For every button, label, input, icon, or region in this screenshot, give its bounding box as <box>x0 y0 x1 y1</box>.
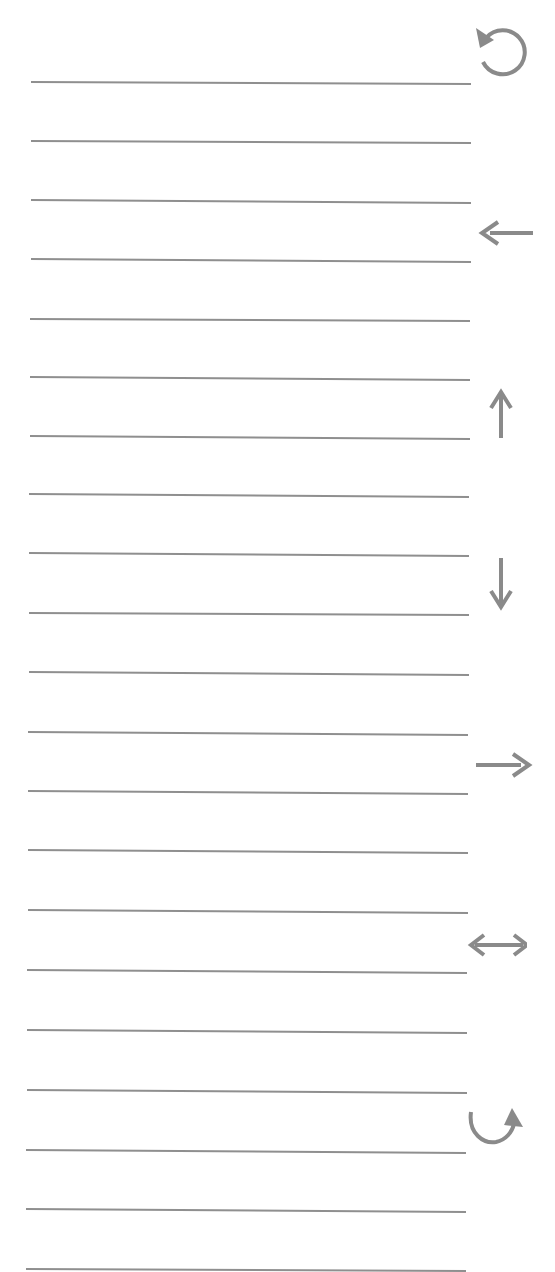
ruled-line <box>28 849 468 854</box>
ruled-line <box>29 552 469 557</box>
ruled-line <box>31 140 471 144</box>
ruled-line <box>29 671 469 676</box>
arrow-up-icon <box>474 383 534 443</box>
ruled-line <box>31 199 471 204</box>
ruled-line <box>26 1268 466 1272</box>
ruled-line <box>28 909 468 914</box>
ruled-line <box>27 1089 467 1094</box>
ruled-line <box>26 1149 466 1154</box>
ruled-line <box>30 318 470 322</box>
ruled-line <box>28 731 468 736</box>
ruled-line <box>29 612 469 616</box>
ruled-line <box>30 376 470 381</box>
ruled-line <box>26 1208 466 1213</box>
ruled-line <box>29 493 469 498</box>
rotate-counterclockwise-icon <box>470 20 530 80</box>
curved-arrow-up-right-icon <box>466 1100 526 1160</box>
arrow-right-icon <box>473 735 533 795</box>
ruled-line <box>27 1029 467 1034</box>
ruled-line <box>31 258 471 263</box>
ruled-line <box>28 790 468 795</box>
ruled-line <box>27 969 467 974</box>
ruled-line <box>30 435 470 440</box>
ruled-line <box>31 81 471 85</box>
arrow-left-icon <box>476 202 536 262</box>
arrow-down-icon <box>471 553 531 613</box>
arrow-left-right-icon <box>467 916 527 976</box>
